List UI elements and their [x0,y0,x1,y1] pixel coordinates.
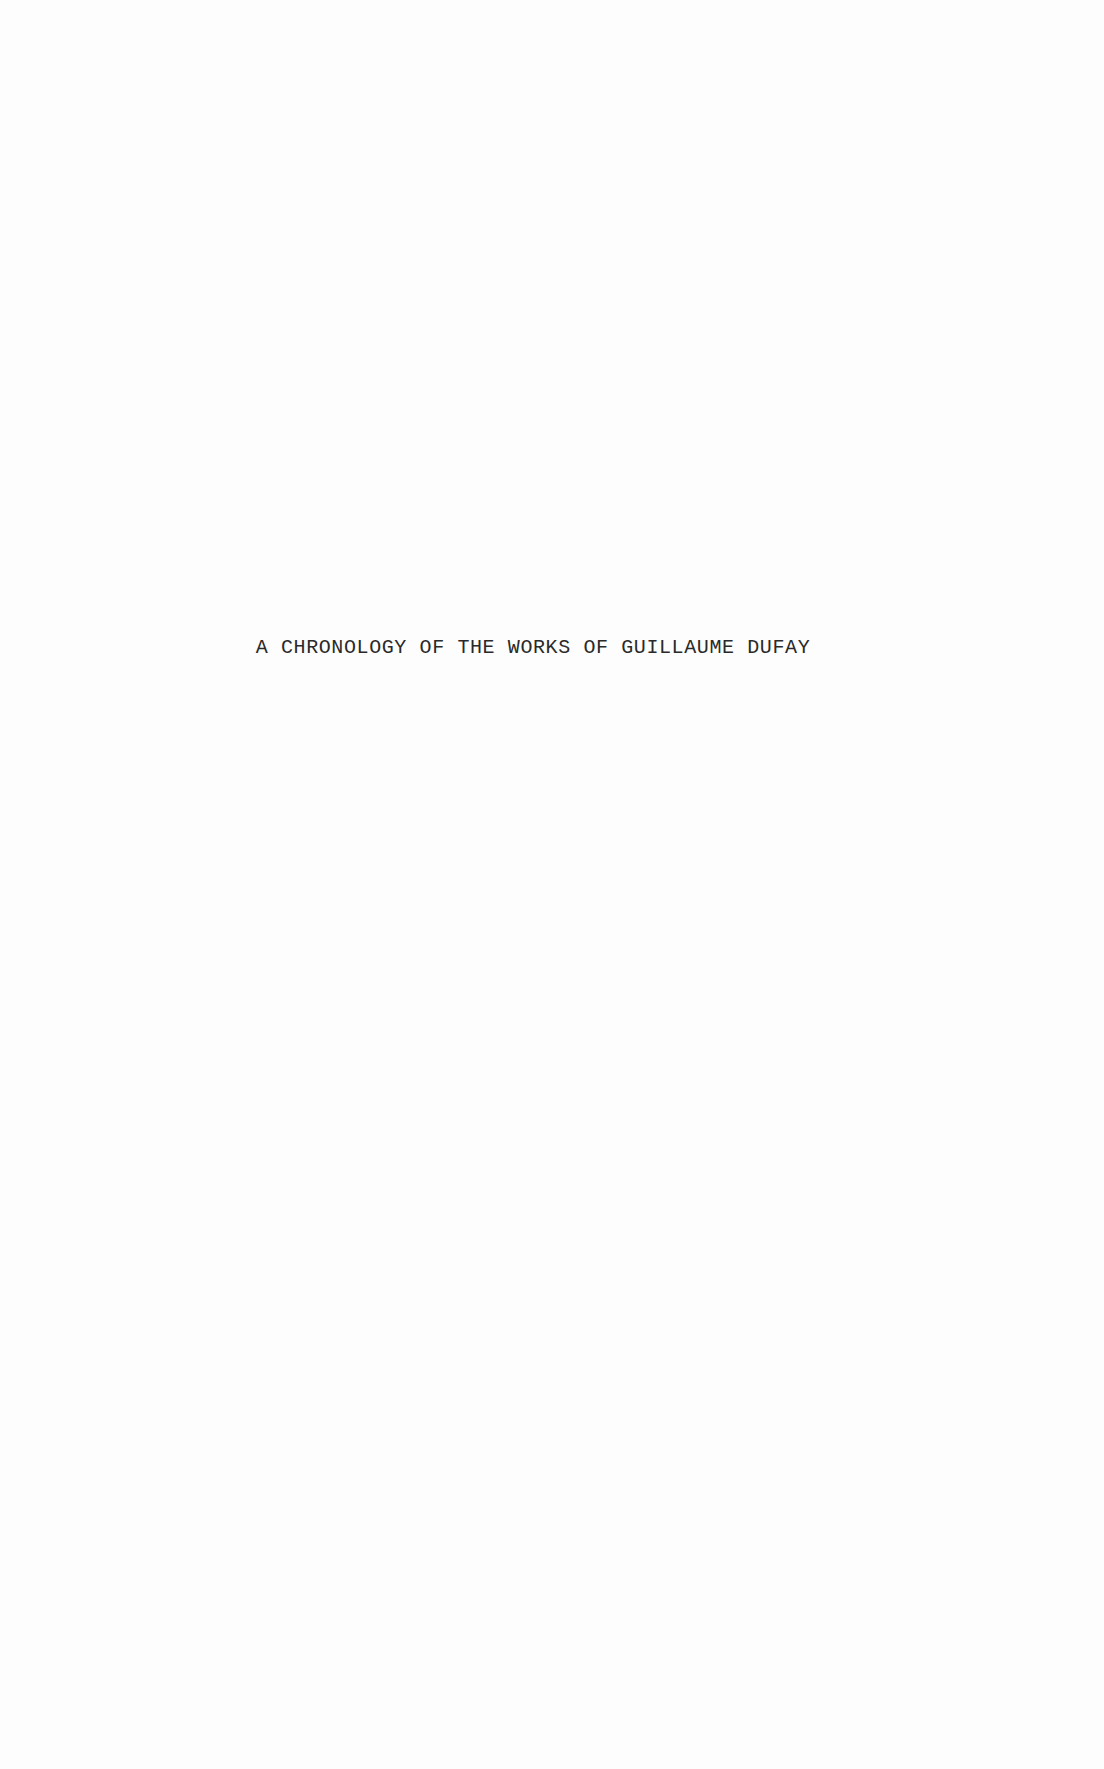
document-page: A CHRONOLOGY OF THE WORKS OF GUILLAUME D… [0,0,1104,1769]
document-title: A CHRONOLOGY OF THE WORKS OF GUILLAUME D… [0,636,1066,660]
